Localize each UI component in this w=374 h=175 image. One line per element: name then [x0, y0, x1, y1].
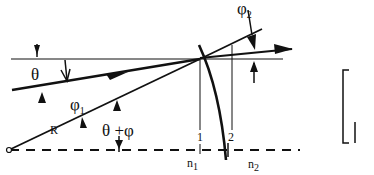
theta-plus-phi-arrowhead [115, 140, 123, 149]
phi2-lower-arrowhead [250, 61, 258, 72]
phi1-label: φ1 [70, 95, 85, 116]
phi1-arrowhead-mid [80, 117, 87, 128]
plane-1-label: 1 [197, 130, 203, 144]
phi1-arrowhead-left [38, 92, 46, 103]
refracted-ray-arrowhead [274, 44, 293, 54]
curved-interface [199, 45, 226, 160]
n1-label: n1 [187, 156, 198, 172]
theta-plus-phi-label: θ +φ [102, 121, 134, 140]
theta-arrowhead-upper [34, 45, 40, 55]
phi2-label: φ2 [237, 0, 252, 20]
incident-ray [12, 59, 200, 90]
theta-label: θ [31, 65, 39, 84]
refraction-diagram: θ φ1 R θ +φ φ2 1 2 n1 n2 [0, 0, 374, 175]
right-bracket [343, 70, 349, 143]
plane-2-label: 2 [228, 130, 234, 144]
n2-label: n2 [248, 157, 259, 173]
radius-label: R [50, 123, 58, 137]
phi1-arrowhead-right [113, 100, 121, 111]
